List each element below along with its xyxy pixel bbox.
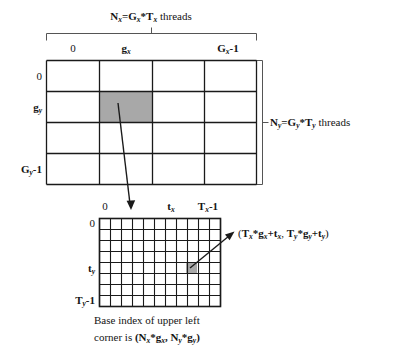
- thread-row-label-ty: ty: [88, 262, 95, 275]
- block-col-label-0: 0: [70, 42, 76, 55]
- thread-row-label-ty-max: Ty-1: [75, 294, 95, 307]
- block-of-threads-cells: [100, 219, 221, 307]
- thread-col-label-tx: tx: [167, 200, 174, 213]
- right-bracket: [256, 61, 269, 185]
- label-total-threads-y: Ny=Gy*Ty threads: [270, 116, 350, 129]
- label-total-threads-x: Nx=Gx*Tx threads: [110, 10, 191, 23]
- thread-col-label-tx-max: Tx-1: [198, 200, 218, 213]
- block-row-label-gy: gy: [33, 101, 42, 114]
- annotation-global-index: (Tx*gx+tx, Ty*gy+ty): [238, 227, 329, 240]
- thread-row-label-0: 0: [90, 217, 96, 230]
- caption-line-1: Base index of upper left: [94, 314, 200, 327]
- thread-col-label-0: 0: [102, 200, 108, 213]
- block-row-label-gy-max: Gy-1: [21, 163, 42, 176]
- grid-of-blocks-cells: [47, 61, 257, 185]
- caption-line-2: corner is (Nx*gx, Ny*gy): [94, 331, 200, 344]
- figure-cuda-thread-indexing: Nx=Gx*Tx threads Ny=Gy*Ty threads 0 gx G…: [0, 0, 403, 362]
- block-col-label-gx-max: Gx-1: [217, 42, 238, 55]
- block-col-label-gx: gx: [121, 42, 130, 55]
- top-bracket: [47, 28, 257, 41]
- block-row-label-0: 0: [37, 70, 43, 83]
- figure-linework: [0, 0, 403, 362]
- highlighted-block-cell: [99, 91, 152, 122]
